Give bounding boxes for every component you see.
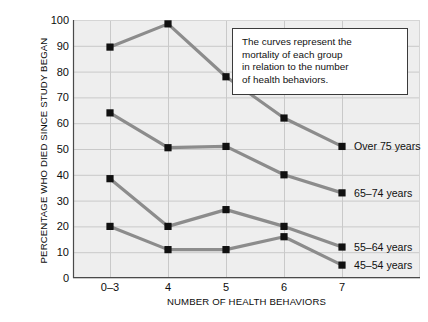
annotation-line: of health behaviors. [242, 74, 398, 87]
series-label: Over 75 years [354, 140, 421, 152]
data-point-marker [338, 262, 345, 269]
data-point-marker [280, 233, 287, 240]
data-point-marker [106, 109, 113, 116]
data-point-marker [280, 223, 287, 230]
data-point-marker [222, 206, 229, 213]
series-label: 45–54 years [354, 259, 412, 271]
data-point-marker [280, 114, 287, 121]
data-point-marker [222, 73, 229, 80]
annotation-line: in relation to the number [242, 61, 398, 74]
data-point-marker [222, 143, 229, 150]
data-point-marker [222, 246, 229, 253]
data-point-marker [106, 43, 113, 50]
data-point-marker [164, 246, 171, 253]
data-point-marker [280, 171, 287, 178]
data-point-marker [338, 189, 345, 196]
data-point-marker [164, 223, 171, 230]
data-point-marker [338, 143, 345, 150]
annotation-line: mortality of each group [242, 49, 398, 62]
series-label: 55–64 years [354, 241, 412, 253]
data-point-marker [106, 175, 113, 182]
annotation-callout-box: The curves represent the mortality of ea… [232, 28, 408, 95]
annotation-line: The curves represent the [242, 36, 398, 49]
data-point-marker [164, 144, 171, 151]
data-point-marker [164, 20, 171, 27]
data-point-marker [106, 223, 113, 230]
series-label: 65–74 years [354, 187, 412, 199]
data-point-marker [338, 243, 345, 250]
health-behaviors-mortality-chart: PERCENTAGE WHO DIED SINCE STUDY BEGAN 01… [0, 0, 428, 322]
